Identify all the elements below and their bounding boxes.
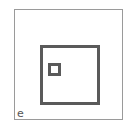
small-square: [48, 63, 61, 76]
panel-label: e: [17, 108, 24, 119]
